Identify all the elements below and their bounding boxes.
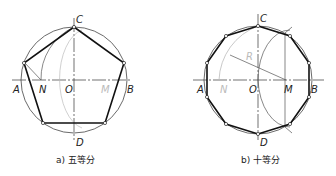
vertex-dot	[122, 61, 125, 64]
vertex-dot	[307, 61, 310, 64]
label-c: C	[76, 14, 83, 25]
label-d: D	[76, 137, 84, 148]
label-n: N	[39, 84, 47, 95]
label-n: N	[220, 84, 228, 95]
label-m: M	[284, 84, 293, 95]
vertex-dot	[72, 25, 75, 28]
label-a: A	[12, 84, 20, 95]
label-b: B	[311, 84, 318, 95]
vertex-dot	[288, 122, 291, 125]
vertex-dot	[41, 121, 44, 124]
label-a: A	[196, 84, 204, 95]
label-o: O	[249, 84, 257, 95]
label-d: D	[260, 137, 268, 148]
caption-b: b) 十等分	[241, 154, 280, 165]
figure-a-pentagon: C A N O M B D a) 五等分	[12, 14, 134, 165]
vertex-dot	[205, 61, 208, 64]
vertex-dot	[256, 24, 259, 27]
vertex-dot	[22, 61, 25, 64]
vertex-dot	[288, 34, 291, 37]
vertex-dot	[307, 95, 310, 98]
figure-b-decagon: C A N O M B R D b) 十等分	[193, 13, 324, 165]
label-b: B	[127, 84, 134, 95]
vertex-dot	[103, 121, 106, 124]
vertex-dot	[224, 122, 227, 125]
tick-line	[285, 127, 292, 133]
label-m: M	[101, 84, 110, 95]
vertex-dot	[256, 132, 259, 135]
vertex-dot	[205, 95, 208, 98]
vertex-dot	[224, 34, 227, 37]
arc-m-construction	[60, 30, 82, 128]
division-diagram: C A N O M B D a) 五等分	[0, 0, 336, 176]
label-o: O	[65, 84, 73, 95]
caption-a: a) 五等分	[56, 154, 95, 165]
label-c: C	[260, 13, 267, 24]
label-r: R	[246, 51, 253, 62]
